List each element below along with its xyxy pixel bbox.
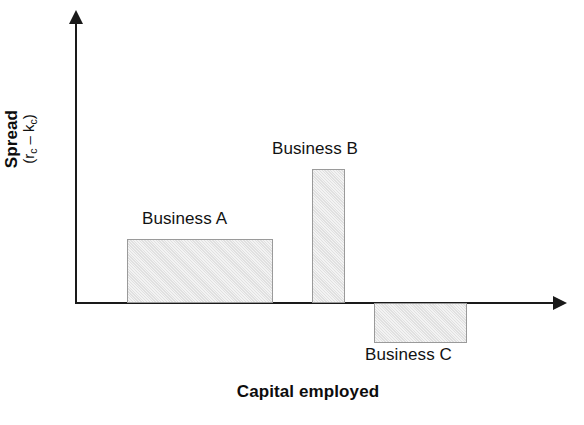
bar-label-business-b: Business B (272, 139, 358, 159)
bar-label-business-a: Business A (142, 209, 227, 229)
y-axis-line (75, 22, 77, 304)
x-axis-title: Capital employed (0, 382, 584, 402)
y-axis-sub-open: (r (20, 154, 37, 164)
x-axis-title-text: Capital employed (237, 382, 379, 402)
y-axis-sub-c2: c (27, 119, 39, 124)
arrow-right-icon (553, 296, 567, 310)
bar-business-a (127, 239, 273, 303)
bar-chart-figure: Business A Business B Business C Spread … (0, 0, 584, 425)
bar-label-business-c: Business C (365, 345, 452, 365)
y-axis-title-sub: (rc – kc) (21, 114, 38, 164)
bar-business-b (312, 169, 345, 303)
bar-business-c (374, 303, 467, 343)
y-axis-sub-minus: – k (20, 124, 37, 148)
arrow-up-icon (69, 10, 83, 24)
y-axis-sub-c1: c (27, 149, 39, 154)
y-axis-title-main: Spread (2, 110, 21, 168)
y-axis-title: Spread (rc – kc) (0, 74, 41, 204)
